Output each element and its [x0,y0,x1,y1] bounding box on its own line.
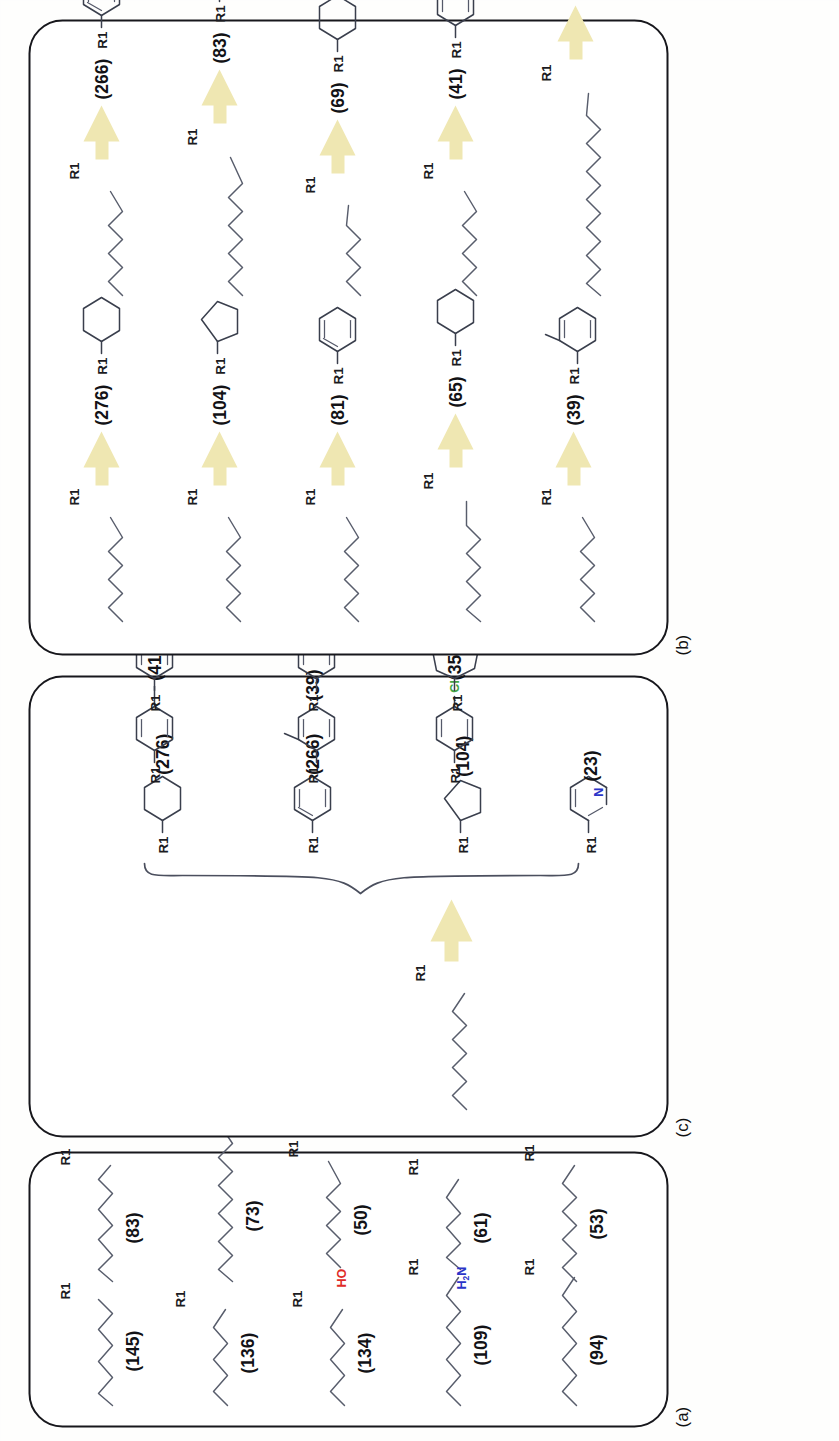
amino-alkyl-chain-icon [408,1163,472,1283]
panel-a-count: (109) [470,1324,491,1365]
panel-a-count: (73) [242,1200,263,1231]
panel-b-count: (104) [209,384,230,425]
hydroxy-alkyl-chain-icon [288,1145,352,1283]
panel-b-entry-83: R1 (83) R1 [188,0,250,297]
alkyl-chain-icon [60,1287,124,1407]
r1-label: R1 [57,1148,72,1165]
panel-b-count: (276) [91,384,112,425]
panel-a-item-136: R1 (136) [175,1295,239,1407]
panel-a-item-94: R1 (94) [524,1263,588,1407]
transform-arrow-icon [435,105,475,159]
r1-label: R1 [184,488,199,505]
r1-label: R1 [184,128,199,145]
panel-c-source: R1 [416,969,478,1111]
cyclohexane-icon [77,297,125,355]
panel-b-label: (b) [672,634,692,655]
panel-a-item-61: R1 H2N (61) [408,1163,472,1283]
panel-a: R1 (145) R1 (136) R1 (134) R1 [28,1151,668,1427]
r1-label: R1 [212,357,227,374]
panel-c-arrow [428,899,474,961]
benzene-icon [288,776,336,834]
source-chain: R1 [188,491,250,623]
alkyl-chain-icon [70,491,132,623]
cyclopentane-icon [438,778,486,834]
panel-b-entry-41: R1 (41) R1 [424,0,486,297]
panel-b-count: (81) [327,394,348,425]
transform-arrow-icon [199,69,239,123]
benzene-icon [313,307,361,365]
panel-a-item-145: R1 (145) [60,1287,124,1407]
r1-label: R1 [330,367,345,384]
r1-label: R1 [447,766,462,783]
alkyl-chain-icon [70,165,132,297]
panel-c-label: (c) [672,1117,692,1137]
alkyl-chain-icon [306,179,368,297]
panel-a-count: (145) [122,1330,143,1371]
panel-a-item-53: R1 (53) [524,1149,588,1283]
transform-arrow-icon [435,413,475,467]
r1-label: R1 [147,694,162,711]
source-chain: R1 [306,179,368,297]
r1-label: R1 [449,694,464,711]
alkyl-chain-icon [524,1149,588,1283]
panel-b-count: (39) [563,394,584,425]
r1-label: R1 [212,5,227,22]
cyclopentane-icon [195,299,243,355]
r1-label: R1 [405,1158,420,1175]
r1-label: R1 [94,357,109,374]
r1-label: R1 [521,1144,536,1161]
panel-a-count: (50) [350,1204,371,1235]
panel-b-count: (41) [445,68,466,99]
alkyl-chain-icon [175,1295,239,1407]
r1-label: R1 [302,176,317,193]
r1-label: R1 [420,162,435,179]
r1-label: R1 [455,836,470,853]
panel-b-count: (69) [327,82,348,113]
nitrogen-label: N [591,787,605,796]
r1-label: R1 [420,472,435,489]
panel-b: R1 (276) R1 R1 [28,19,668,655]
benzene-icon [77,0,125,29]
r1-label: R1 [302,488,317,505]
r1-label: R1 [412,964,427,981]
panel-b-entry-37: R1 (37) R1 [542,0,608,297]
source-chain: R1 [70,165,132,297]
ortho-tolyl-icon [543,303,603,365]
r1-label: R1 [448,349,463,366]
cyclohexane-icon [313,0,361,53]
r1-label: R1 [538,488,553,505]
cyclohexane-icon [138,776,186,834]
r1-label: R1 [147,766,162,783]
r1-label: R1 [66,488,81,505]
panel-b-count: (83) [209,32,230,63]
r1-label: R1 [305,836,320,853]
transform-arrow-icon [555,5,595,59]
transform-arrow-icon [81,431,121,485]
r1-label: R1 [305,694,320,711]
r1-label: R1 [583,836,598,853]
panel-c: R1 R1 (276) R1 [28,675,668,1137]
source-chain: R1 [542,491,604,623]
alkyl-chain-icon [542,65,608,297]
panel-b-count: (65) [445,376,466,407]
source-chain: R1 [542,65,608,297]
transform-arrow-icon [81,105,121,159]
amino-label: H2N [454,1266,471,1289]
panel-b-count: (266) [91,58,112,99]
r1-label: R1 [94,31,109,48]
r1-label: R1 [305,766,320,783]
panel-a-count: (61) [470,1212,491,1243]
pyridine-icon [564,776,616,834]
r1-label: R1 [155,836,170,853]
source-chain: R1 [424,473,486,623]
transform-arrow-icon [199,431,239,485]
r1-label: R1 [285,1140,300,1157]
r1-label: R1 [566,367,581,384]
transform-arrow-icon [553,431,593,485]
panel-c-count: (23) [580,750,601,781]
panel-a-count: (83) [122,1212,143,1243]
panel-b-entry-69: R1 (69) R1 [306,0,368,297]
alkyl-chain-icon [306,491,368,623]
r1-label: R1 [66,162,81,179]
panel-b-entry-81: R1 (81) R1 [306,307,368,623]
